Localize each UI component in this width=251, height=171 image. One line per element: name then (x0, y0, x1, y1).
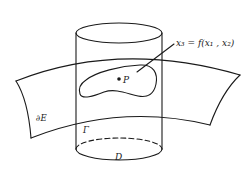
diagram-canvas: x₃ = f(x₁ , x₂) P ∂E Γ D (0, 0, 251, 171)
equation-leader-line (137, 44, 174, 72)
surface-bottom-edge (31, 117, 210, 138)
label-domain-d: D (114, 152, 122, 162)
graph-patch (79, 65, 156, 97)
surface-right-edge (210, 75, 240, 125)
cylinder-bottom-back-dashed (76, 138, 162, 149)
point-p-marker (117, 77, 121, 81)
label-surface-boundary: ∂E (36, 113, 47, 123)
cylinder-top-ellipse (76, 23, 162, 43)
label-point-p: P (122, 75, 130, 85)
label-equation: x₃ = f(x₁ , x₂) (176, 38, 235, 48)
label-gamma: Γ (82, 125, 90, 135)
surface-band (16, 59, 240, 138)
surface-left-edge (16, 81, 31, 138)
